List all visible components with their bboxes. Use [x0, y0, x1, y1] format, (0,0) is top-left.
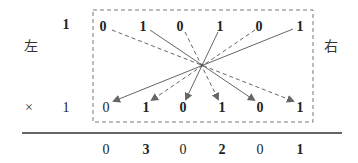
top-digit-2: 1: [140, 20, 147, 34]
bottom-digit-1: 0: [103, 101, 110, 115]
multiplicand-prefix: 1: [63, 18, 70, 32]
center-point: [201, 64, 204, 67]
result-digit-3: 0: [180, 143, 187, 157]
top-digit-1: 0: [100, 20, 107, 34]
result-digit-2: 3: [143, 143, 150, 157]
left-label: 左: [24, 40, 38, 54]
right-label: 右: [324, 40, 338, 54]
bottom-digit-4: 1: [219, 101, 226, 115]
result-digit-6: 1: [297, 143, 304, 157]
result-digit-1: 0: [103, 143, 110, 157]
top-digit-6: 1: [297, 20, 304, 34]
bottom-digit-2: 1: [143, 101, 150, 115]
top-digit-5: 0: [256, 20, 263, 34]
bottom-digit-3: 0: [180, 101, 187, 115]
bottom-digit-5: 0: [257, 101, 264, 115]
result-digit-5: 0: [257, 143, 264, 157]
result-digit-4: 2: [219, 143, 226, 157]
top-digit-4: 1: [217, 20, 224, 34]
bottom-digit-6: 1: [297, 101, 304, 115]
top-digit-3: 0: [177, 20, 184, 34]
times-sign: ×: [25, 101, 33, 115]
multiplier-prefix: 1: [63, 101, 70, 115]
